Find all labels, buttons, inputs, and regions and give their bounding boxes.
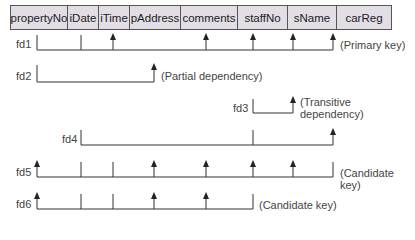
fd3-label: fd3 xyxy=(233,102,248,114)
fd1-note: (Primary key) xyxy=(340,39,405,51)
fd6-label: fd6 xyxy=(16,198,31,210)
arrowheads xyxy=(34,33,336,199)
fd5-lines xyxy=(37,162,333,177)
fd1-label: fd1 xyxy=(16,38,31,50)
fd5-note: (Candidate key) xyxy=(340,167,415,191)
fd2-label: fd2 xyxy=(16,70,31,82)
fd3-note-line2: dependency) xyxy=(300,108,364,120)
fd2-note: (Partial dependency) xyxy=(161,70,263,82)
fd3-lines xyxy=(253,99,293,113)
fd2-lines xyxy=(37,65,154,82)
fd5-label: fd5 xyxy=(16,166,31,178)
fd3-note-line1: (Transitive xyxy=(300,96,351,108)
fd6-lines xyxy=(37,194,253,209)
fd4-label: fd4 xyxy=(62,133,77,145)
fd4-lines xyxy=(81,130,333,145)
fd1-lines xyxy=(37,35,333,50)
fd6-note: (Candidate key) xyxy=(259,199,337,211)
